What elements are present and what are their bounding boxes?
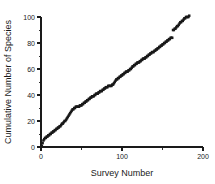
x-tick-label: 0 (39, 153, 43, 160)
y-tick-label: 80 (27, 40, 35, 47)
y-tick-label: 60 (27, 66, 35, 73)
y-tick-label: 100 (23, 14, 35, 21)
x-axis-ticks: 0100200 (39, 147, 209, 160)
data-point (171, 37, 174, 40)
data-point (188, 14, 191, 17)
x-tick-label: 100 (116, 153, 128, 160)
y-tick-label: 20 (27, 118, 35, 125)
species-accumulation-chart: 020406080100 0100200 Survey Number Cumul… (0, 0, 215, 184)
y-axis-title: Cumulative Number of Species (3, 19, 13, 144)
x-tick-label: 200 (197, 153, 209, 160)
y-tick-label: 0 (31, 144, 35, 151)
y-tick-label: 40 (27, 92, 35, 99)
y-axis-ticks: 020406080100 (23, 14, 41, 151)
data-point (41, 142, 44, 145)
chart-canvas: 020406080100 0100200 Survey Number Cumul… (0, 0, 215, 184)
data-series-points (41, 14, 191, 147)
data-point (41, 144, 44, 147)
x-axis-title: Survey Number (91, 168, 154, 178)
